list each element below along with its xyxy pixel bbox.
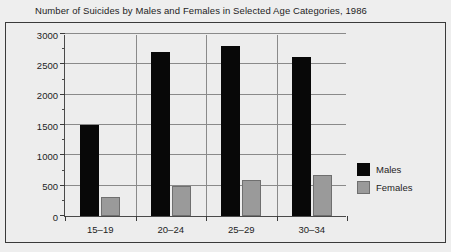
bar-females-15–19 [101, 197, 120, 216]
y-tick-label-500: 500 [42, 181, 58, 192]
y-tick-label-1500: 1500 [37, 120, 58, 131]
bar-group [136, 35, 207, 216]
gridline-3000 [65, 33, 346, 34]
plot-area: 050010001500200025003000 15–1920–2425–29… [64, 35, 346, 217]
x-tick-2 [206, 216, 207, 221]
legend-item-males: Males [357, 163, 412, 176]
legend-item-females: Females [357, 181, 412, 194]
bar-group [277, 35, 348, 216]
y-tick-label-2500: 2500 [37, 59, 58, 70]
x-tick-4 [347, 216, 348, 221]
chart-legend: MalesFemales [357, 163, 412, 199]
y-tick-label-2000: 2000 [37, 90, 58, 101]
bar-females-20–24 [172, 186, 191, 216]
x-tick-1 [136, 216, 137, 221]
chart-figure: Number of Suicides by Males and Females … [0, 0, 451, 252]
bar-males-25–29 [221, 46, 240, 216]
bar-females-25–29 [242, 180, 261, 216]
x-tick-label-25–29: 25–29 [228, 224, 254, 235]
x-tick-label-15–19: 15–19 [87, 224, 113, 235]
bar-males-30–34 [292, 57, 311, 216]
y-tick-3000 [60, 33, 65, 34]
x-tick-label-20–24: 20–24 [158, 224, 184, 235]
y-tick-label-0: 0 [53, 211, 58, 222]
x-tick-0 [65, 216, 66, 221]
bar-females-30–34 [313, 175, 332, 216]
chart-title: Number of Suicides by Males and Females … [35, 5, 367, 16]
legend-label-males: Males [376, 164, 401, 175]
bar-group [206, 35, 277, 216]
bar-group [65, 35, 136, 216]
x-tick-label-30–34: 30–34 [299, 224, 325, 235]
bar-males-20–24 [151, 52, 170, 216]
chart-panel: 050010001500200025003000 15–1920–2425–29… [5, 22, 446, 243]
y-tick-label-1000: 1000 [37, 150, 58, 161]
bar-males-15–19 [80, 125, 99, 216]
x-tick-3 [277, 216, 278, 221]
legend-label-females: Females [376, 182, 412, 193]
legend-swatch-males [357, 163, 370, 176]
legend-swatch-females [357, 181, 370, 194]
y-tick-label-3000: 3000 [37, 29, 58, 40]
